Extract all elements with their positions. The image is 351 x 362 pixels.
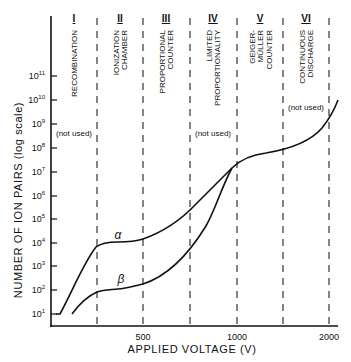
region-header: IIIONIZATIONCHAMBER [112,13,130,75]
y-axis-ticks: 10110210310410510610710810910101011 [28,70,57,319]
y-axis-title: NUMBER OF ION PAIRS (log scale) [12,102,24,298]
x-axis-ticks: 50010002000 [135,332,339,342]
not-used-annotations: (not used)(not used)(not used) [56,103,324,138]
x-tick-label: 2000 [319,332,339,342]
region-numeral: IV [208,13,218,24]
region-numeral: II [117,13,123,24]
alpha-label: α [115,228,123,242]
ion-pairs-chart: IRECOMBINATIONIIIONIZATIONCHAMBERIIIPROP… [0,0,351,362]
y-tick-label: 107 [32,166,46,177]
region-numeral: V [257,13,264,24]
not-used-annotation: (not used) [195,129,231,138]
region-header: VGEIGER-MÜLLERCOUNTER [248,13,274,70]
region-label: DISCHARGE [306,30,315,78]
region-header: VICONTINUOUSDISCHARGE [298,13,316,84]
region-label: COUNTER [166,30,175,70]
y-tick-label: 109 [32,118,46,129]
region-header: IRECOMBINATION [70,13,79,97]
region-numeral: I [73,13,76,24]
region-label: PROPORTIONALITY [213,29,222,106]
region-label: RECOMBINATION [70,30,79,97]
region-numeral: VI [301,13,311,24]
region-label: CHAMBER [120,30,129,70]
region-numeral: III [162,13,171,24]
region-header: IVLIMITEDPROPORTIONALITY [205,13,223,106]
y-tick-label: 1011 [29,70,46,81]
x-tick-label: 1000 [227,332,247,342]
y-tick-label: 102 [32,284,46,295]
not-used-annotation: (not used) [56,129,92,138]
x-axis-title: APPLIED VOLTAGE (V) [128,343,257,355]
y-tick-label: 106 [32,190,46,201]
y-tick-label: 1010 [28,94,45,105]
not-used-annotation: (not used) [288,103,324,112]
y-tick-label: 101 [32,308,46,319]
x-tick-label: 500 [135,332,150,342]
beta-curve [72,168,232,314]
y-tick-label: 104 [32,237,46,248]
region-label: COUNTER [265,30,274,70]
beta-label: β [117,272,125,286]
region-header: IIIPROPORTIONALCOUNTER [158,13,176,93]
y-tick-label: 108 [32,142,46,153]
y-tick-label: 103 [32,260,46,271]
y-tick-label: 105 [32,213,46,224]
region-headers: IRECOMBINATIONIIIONIZATIONCHAMBERIIIPROP… [70,13,315,106]
